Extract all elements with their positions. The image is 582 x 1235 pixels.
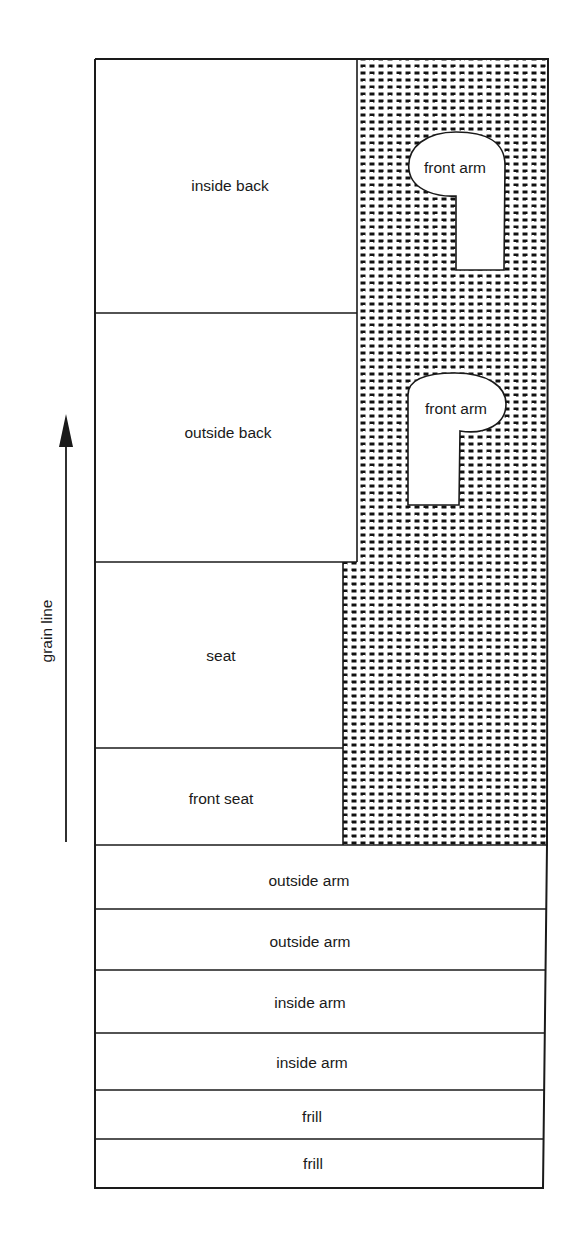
piece-label-front-seat: front seat bbox=[189, 790, 254, 807]
piece-label-outside-back: outside back bbox=[184, 424, 271, 441]
piece-label-frill-1: frill bbox=[302, 1108, 322, 1125]
cutting-layout-diagram: front arm front arm inside back outside … bbox=[0, 0, 582, 1235]
piece-label-seat: seat bbox=[206, 647, 236, 664]
piece-label-frill-2: frill bbox=[303, 1155, 323, 1172]
piece-label-inside-back: inside back bbox=[191, 177, 269, 194]
grain-line-arrow-icon bbox=[59, 414, 73, 842]
piece-label-inside-arm-2: inside arm bbox=[276, 1054, 348, 1071]
grain-line-label: grain line bbox=[38, 600, 55, 663]
piece-label-front-arm-2: front arm bbox=[425, 400, 487, 417]
piece-label-front-arm-1: front arm bbox=[424, 159, 486, 176]
piece-label-outside-arm-2: outside arm bbox=[270, 933, 351, 950]
piece-label-inside-arm-1: inside arm bbox=[274, 994, 346, 1011]
piece-label-outside-arm-1: outside arm bbox=[269, 872, 350, 889]
